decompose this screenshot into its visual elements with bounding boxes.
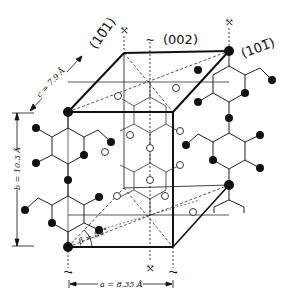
plane-label-101-: (101̅): [239, 35, 277, 61]
right-chain-atoms: [182, 46, 276, 190]
screw-axis-symbol-top-right: ⤲: [224, 16, 233, 29]
dimension-label-b: b = 10.3 Å: [13, 147, 22, 190]
diagram-canvas: ⤲ ~ ⤲ ⤳ ⤲ ⤳: [0, 0, 286, 299]
screw-axis-symbol-bottom-right: ⤳: [168, 266, 177, 279]
center-chain-atoms: [102, 85, 197, 216]
screw-axis-symbol-bottom-left: ⤳: [63, 266, 72, 279]
plane-label-10-1: (10̅1): [86, 14, 118, 51]
plane-label-002: (002): [163, 32, 198, 47]
screw-axis-symbol-top-left: ⤲: [119, 24, 128, 37]
crystal-unit-cell-diagram: ⤲ ~ ⤲ ⤳ ⤲ ⤳: [0, 0, 286, 299]
angle-label-beta: β = 84°: [76, 226, 109, 246]
screw-axis-symbol-bottom-mid: ⤲: [145, 262, 154, 275]
screw-axis-symbol-top-mid: ~: [145, 34, 154, 47]
dimension-label-a: a = 8.35 Å: [100, 280, 143, 289]
